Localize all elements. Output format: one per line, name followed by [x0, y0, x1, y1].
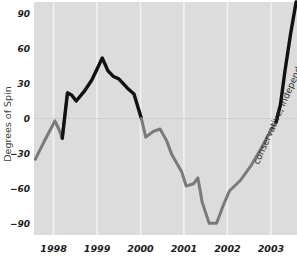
x-tick-2000: 2000	[127, 243, 154, 254]
x-tick-2002: 2002	[214, 243, 241, 254]
x-tick-1999: 1999	[84, 243, 111, 254]
y-tick-−60: −60	[10, 184, 30, 194]
x-tick-2001: 2001	[171, 243, 197, 254]
y-tick-0: 0	[24, 114, 30, 124]
y-tick-90: 90	[17, 9, 30, 19]
chart-canvas: 9060300−30−60−90 19981999200020012002200…	[0, 0, 297, 259]
x-axis-tick-labels: 199819992000200120022003	[40, 243, 284, 254]
y-tick-30: 30	[17, 79, 30, 89]
y-tick-−90: −90	[10, 219, 30, 229]
spin-chart: 9060300−30−60−90 19981999200020012002200…	[0, 0, 297, 259]
y-axis-title: Degrees of Spin	[2, 86, 13, 161]
x-tick-1998: 1998	[40, 243, 67, 254]
y-tick-60: 60	[17, 44, 30, 54]
x-tick-2003: 2003	[258, 243, 285, 254]
